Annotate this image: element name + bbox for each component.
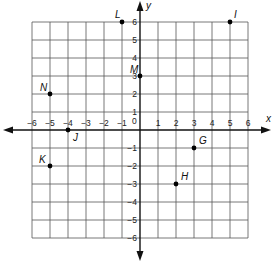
coordinate-plane: x y 0 −6−5−4−3−2−1123456654321−1−2−3−4−5… xyxy=(0,0,274,263)
point-label: K xyxy=(39,154,47,165)
point-marker-icon xyxy=(48,164,53,169)
y-tick-label: −5 xyxy=(127,215,137,225)
point-marker-icon xyxy=(120,20,125,25)
y-tick-label: −3 xyxy=(127,179,137,189)
y-tick-label: 4 xyxy=(132,53,137,63)
x-axis-left-arrow-icon xyxy=(3,127,13,134)
x-tick-label: −1 xyxy=(117,118,127,128)
x-tick-label: 4 xyxy=(210,118,215,128)
y-tick-label: −4 xyxy=(127,197,137,207)
y-tick-label: 6 xyxy=(132,17,137,27)
x-tick-label: −4 xyxy=(63,118,73,128)
y-tick-label: −6 xyxy=(127,233,137,243)
point-marker-icon xyxy=(174,182,179,187)
axes: x y 0 xyxy=(3,0,272,261)
y-axis-down-arrow-icon xyxy=(137,251,144,261)
y-tick-label: −1 xyxy=(127,143,137,153)
x-tick-label: 6 xyxy=(246,118,251,128)
y-axis-up-arrow-icon xyxy=(137,1,144,11)
x-tick-label: 2 xyxy=(174,118,179,128)
point-marker-icon xyxy=(192,146,197,151)
y-tick-label: 5 xyxy=(132,35,137,45)
x-tick-label: −3 xyxy=(81,118,91,128)
x-tick-label: 3 xyxy=(192,118,197,128)
plotted-points: LINMJKGH xyxy=(39,9,237,186)
x-axis-label: x xyxy=(265,113,272,124)
y-axis-label: y xyxy=(145,0,152,11)
y-tick-label: 1 xyxy=(132,107,137,117)
x-tick-label: −6 xyxy=(27,118,37,128)
origin-label: 0 xyxy=(132,116,137,126)
point-label: I xyxy=(234,9,237,20)
point-marker-icon xyxy=(48,92,53,97)
point-marker-icon xyxy=(228,20,233,25)
point-label: J xyxy=(72,132,79,143)
y-tick-label: 2 xyxy=(132,89,137,99)
point-label: N xyxy=(40,82,48,93)
x-axis-right-arrow-icon xyxy=(261,127,271,134)
x-tick-label: 5 xyxy=(228,118,233,128)
point-marker-icon xyxy=(66,128,71,133)
y-tick-label: −2 xyxy=(127,161,137,171)
point-label: M xyxy=(130,64,139,75)
x-tick-label: 1 xyxy=(156,118,161,128)
x-tick-label: −2 xyxy=(99,118,109,128)
point-label: H xyxy=(181,171,189,182)
point-label: G xyxy=(199,135,207,146)
point-label: L xyxy=(115,9,121,20)
x-tick-label: −5 xyxy=(45,118,55,128)
